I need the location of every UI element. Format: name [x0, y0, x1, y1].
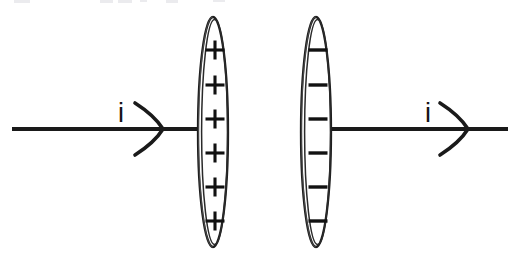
crop-artifact-mark [14, 0, 30, 3]
crop-artifact-mark [166, 0, 178, 3]
capacitor-current-figure: Parallel capacitor plates with conductio… [0, 0, 519, 260]
current-label-left: i [118, 98, 124, 128]
crop-artifact-mark [213, 0, 225, 2]
current-label-right: i [425, 98, 431, 128]
diagram-canvas: Parallel capacitor plates with conductio… [0, 0, 519, 260]
crop-artifact-mark [140, 0, 147, 2]
crop-artifact-mark [100, 0, 113, 3]
crop-artifact-mark [118, 0, 132, 3]
